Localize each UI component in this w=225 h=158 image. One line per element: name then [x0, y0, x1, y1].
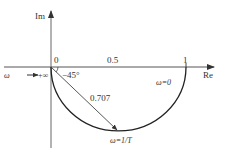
angle-arc	[56, 67, 58, 72]
magnitude-label: 0.707	[90, 93, 111, 103]
omega-inf-value: +∞	[38, 71, 49, 80]
im-axis-label: Im	[35, 11, 45, 21]
omega-corner-label: ω=1/T	[110, 136, 132, 145]
angle-label: −45°	[62, 70, 80, 80]
nyquist-plot: Im Re 0 0.5 1 ω +∞ −45° 0.707 ω=0 ω=1/T	[0, 0, 225, 158]
omega-inf-label: ω	[4, 71, 10, 80]
half-label: 0.5	[107, 55, 119, 65]
one-label: 1	[183, 55, 188, 65]
omega-zero-label: ω=0	[156, 78, 171, 87]
origin-label: 0	[54, 55, 59, 65]
re-axis-label: Re	[203, 70, 213, 80]
